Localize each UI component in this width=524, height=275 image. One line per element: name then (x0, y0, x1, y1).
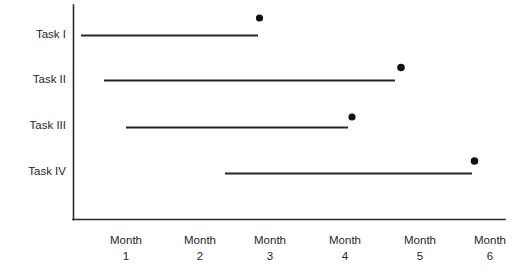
task-label-2: Task II (33, 73, 66, 85)
gantt-chart: Task I Task II Task III Task IV Month 1 … (0, 0, 524, 275)
month-tick-word-5: Month (404, 234, 436, 246)
month-tick-number-6: 6 (487, 250, 493, 262)
month-tick-word-3: Month (254, 234, 286, 246)
month-tick-number-1: 1 (123, 250, 129, 262)
month-tick-number-5: 5 (417, 250, 423, 262)
month-tick-number-3: 3 (267, 250, 273, 262)
gantt-chart-canvas: Task I Task II Task III Task IV Month 1 … (0, 0, 524, 275)
milestone-dot-3 (348, 113, 355, 120)
month-tick-word-4: Month (329, 234, 361, 246)
task-label-1: Task I (36, 28, 66, 40)
task-label-4: Task IV (28, 165, 66, 177)
month-tick-word-1: Month (110, 234, 142, 246)
month-tick-word-6: Month (474, 234, 506, 246)
task-label-3: Task III (30, 119, 66, 131)
milestone-dot-4 (471, 157, 479, 165)
month-tick-number-2: 2 (197, 250, 203, 262)
month-tick-word-2: Month (184, 234, 216, 246)
milestone-dot-2 (397, 64, 405, 72)
milestone-dot-1 (256, 14, 263, 21)
month-tick-number-4: 4 (342, 250, 349, 262)
